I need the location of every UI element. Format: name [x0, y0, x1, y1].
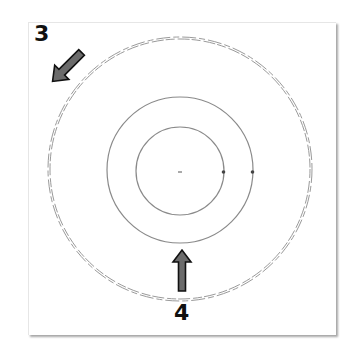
label-3: 3 [34, 23, 49, 45]
label-4: 4 [174, 302, 189, 324]
inner-circle-node [222, 170, 226, 174]
middle-circle [107, 97, 253, 243]
diagonal-arrow-icon [45, 45, 88, 88]
up-arrow-icon [173, 250, 191, 291]
middle-circle-node [251, 170, 255, 174]
inner-circle [136, 127, 224, 215]
